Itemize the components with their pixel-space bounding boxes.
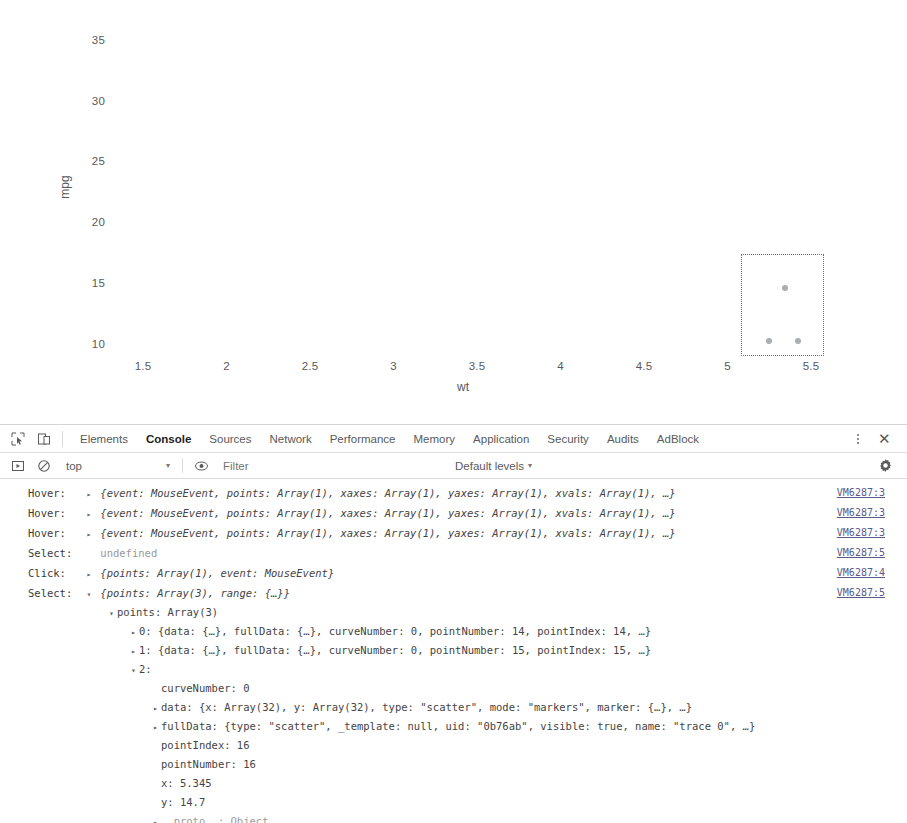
expand-triangle-right-icon[interactable]: ▸	[128, 642, 139, 661]
object-tree-row[interactable]: ▸1: {data: {…}, fullData: {…}, curveNumb…	[0, 641, 907, 660]
console-source-link[interactable]: VM6287:3	[837, 503, 885, 523]
object-tree-row[interactable]: pointIndex: 16	[0, 736, 907, 755]
console-filter-input[interactable]	[221, 459, 385, 473]
clear-console-icon[interactable]	[32, 455, 56, 477]
expand-triangle-down-icon[interactable]: ▾	[106, 604, 117, 623]
console-message-row[interactable]: Hover:▸ {event: MouseEvent, points: Arra…	[0, 523, 907, 543]
object-tree-text: pointIndex: 16	[161, 739, 250, 751]
object-tree-text: fullData: {type: "scatter", _template: n…	[161, 720, 755, 732]
object-tree-text: curveNumber: 0	[161, 682, 250, 694]
tab-audits[interactable]: Audits	[598, 429, 648, 449]
object-tree-row[interactable]: ▸__proto__: Object	[0, 812, 907, 823]
console-message-label: Hover:	[28, 483, 84, 503]
console-source-link[interactable]: VM6287:5	[837, 583, 885, 603]
console-message-list[interactable]: Hover:▸ {event: MouseEvent, points: Arra…	[0, 479, 907, 823]
console-source-link[interactable]: VM6287:3	[837, 483, 885, 503]
object-tree-row[interactable]: x: 5.345	[0, 774, 907, 793]
y-tick-label: 15	[65, 277, 105, 289]
live-expression-icon[interactable]	[189, 455, 213, 477]
x-axis-title: wt	[443, 380, 483, 394]
console-message-row[interactable]: Select:▾ {points: Array(3), range: {…}}V…	[0, 583, 907, 603]
devtools-tabs[interactable]: ElementsConsoleSourcesNetworkPerformance…	[71, 429, 708, 449]
tab-memory[interactable]: Memory	[405, 429, 465, 449]
tabbar-divider	[62, 431, 63, 447]
object-tree-row[interactable]: y: 14.7	[0, 793, 907, 812]
x-tick-label: 1.5	[113, 360, 173, 372]
tab-console[interactable]: Console	[137, 429, 200, 449]
x-tick-label: 5	[698, 360, 758, 372]
object-tree-row[interactable]: ▸0: {data: {…}, fullData: {…}, curveNumb…	[0, 622, 907, 641]
tab-network[interactable]: Network	[261, 429, 321, 449]
execution-context-select[interactable]: top ▾	[66, 460, 176, 472]
expand-triangle-right-icon[interactable]: ▸	[84, 565, 94, 585]
execution-context-icon[interactable]	[6, 455, 30, 477]
object-tree-row[interactable]: ▸data: {x: Array(32), y: Array(32), type…	[0, 698, 907, 717]
inspect-element-icon[interactable]	[6, 428, 30, 450]
object-tree-row[interactable]: ▾2:	[0, 660, 907, 679]
devtools-panel[interactable]: ElementsConsoleSourcesNetworkPerformance…	[0, 424, 907, 823]
expand-triangle-right-icon[interactable]: ▸	[150, 813, 161, 823]
console-message-row[interactable]: Select: undefinedVM6287:5	[0, 543, 907, 563]
console-message-label: Hover:	[28, 503, 84, 523]
console-source-link[interactable]: VM6287:5	[837, 543, 885, 563]
console-source-link[interactable]: VM6287:3	[837, 523, 885, 543]
object-tree-text: 1: {data: {…}, fullData: {…}, curveNumbe…	[139, 644, 651, 656]
x-tick-label: 3.5	[447, 360, 507, 372]
log-levels-value: Default levels	[455, 460, 524, 472]
execution-context-value: top	[66, 460, 82, 472]
chevron-down-icon: ▾	[166, 461, 176, 470]
console-source-link[interactable]: VM6287:4	[837, 563, 885, 583]
tab-elements[interactable]: Elements	[71, 429, 137, 449]
object-tree-row[interactable]: ▸fullData: {type: "scatter", _template: …	[0, 717, 907, 736]
scatter-point[interactable]	[766, 338, 772, 344]
log-levels-select[interactable]: Default levels ▾	[455, 460, 532, 472]
console-message-text: {event: MouseEvent, points: Array(1), xa…	[94, 507, 676, 519]
object-tree-text: points: Array(3)	[117, 606, 218, 618]
console-message-text: {points: Array(3), range: {…}}	[94, 587, 290, 599]
x-tick-label: 2.5	[280, 360, 340, 372]
tab-security[interactable]: Security	[538, 429, 598, 449]
y-tick-label: 10	[65, 338, 105, 350]
tab-sources[interactable]: Sources	[200, 429, 260, 449]
tab-adblock[interactable]: AdBlock	[648, 429, 708, 449]
device-toolbar-icon[interactable]	[32, 428, 56, 450]
console-message-row[interactable]: Click:▸ {points: Array(1), event: MouseE…	[0, 563, 907, 583]
console-message-label: Select:	[28, 543, 84, 563]
object-tree-text: y: 14.7	[161, 796, 205, 808]
devtools-tab-bar[interactable]: ElementsConsoleSourcesNetworkPerformance…	[0, 425, 907, 453]
devtools-tabbar-right[interactable]: ✕	[849, 429, 901, 449]
console-message-label: Click:	[28, 563, 84, 583]
plotly-chart[interactable]: mpg wt 353025201510 1.522.533.544.555.5	[0, 0, 907, 410]
console-message-text: undefined	[94, 547, 157, 559]
console-message-text: {points: Array(1), event: MouseEvent}	[94, 567, 334, 579]
scatter-point[interactable]	[795, 338, 801, 344]
more-options-icon[interactable]	[849, 429, 867, 449]
console-message-row[interactable]: Hover:▸ {event: MouseEvent, points: Arra…	[0, 503, 907, 523]
expand-triangle-down-icon[interactable]: ▾	[128, 661, 139, 680]
object-tree-row[interactable]: pointNumber: 16	[0, 755, 907, 774]
object-tree-text: data: {x: Array(32), y: Array(32), type:…	[161, 701, 692, 713]
tab-performance[interactable]: Performance	[321, 429, 405, 449]
expand-triangle-right-icon[interactable]: ▸	[84, 525, 94, 545]
expand-triangle-right-icon[interactable]: ▸	[150, 699, 161, 718]
expand-triangle-right-icon[interactable]: ▸	[150, 718, 161, 737]
settings-gear-icon[interactable]	[878, 458, 893, 473]
console-message-row[interactable]: Hover:▸ {event: MouseEvent, points: Arra…	[0, 483, 907, 503]
object-tree-text: 2:	[139, 663, 152, 675]
object-tree-row[interactable]: curveNumber: 0	[0, 679, 907, 698]
y-tick-label: 25	[65, 155, 105, 167]
console-message-label: Hover:	[28, 523, 84, 543]
chevron-down-icon: ▾	[528, 461, 532, 470]
expand-triangle-down-icon[interactable]: ▾	[84, 585, 94, 605]
expand-triangle-right-icon[interactable]: ▸	[84, 505, 94, 525]
object-tree-row[interactable]: ▾points: Array(3)	[0, 603, 907, 622]
expand-triangle-right-icon[interactable]: ▸	[84, 485, 94, 505]
console-message-text: {event: MouseEvent, points: Array(1), xa…	[94, 487, 676, 499]
tab-application[interactable]: Application	[464, 429, 538, 449]
close-icon[interactable]: ✕	[873, 429, 895, 449]
object-tree-text: 0: {data: {…}, fullData: {…}, curveNumbe…	[139, 625, 651, 637]
console-toolbar[interactable]: top ▾ Default levels ▾	[0, 453, 907, 479]
console-message-label: Select:	[28, 583, 84, 603]
selection-box[interactable]	[741, 254, 825, 356]
expand-triangle-right-icon[interactable]: ▸	[128, 623, 139, 642]
